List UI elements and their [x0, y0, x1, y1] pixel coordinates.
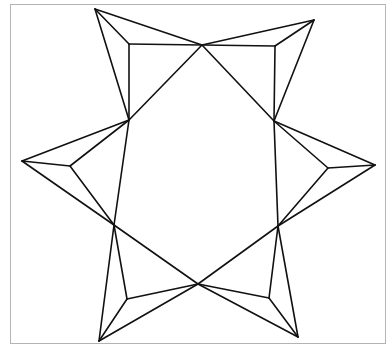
hexagon-edge	[198, 226, 278, 284]
hexagon-edge	[129, 45, 202, 120]
flap-edge	[202, 20, 314, 45]
flap-edge	[99, 225, 114, 341]
fold-line	[70, 120, 129, 166]
flap-edge	[22, 161, 114, 225]
fold-line	[274, 46, 275, 121]
fold-line	[127, 284, 198, 299]
hexagon-edge	[114, 225, 198, 284]
fold-line	[198, 284, 269, 298]
fold-line	[114, 225, 127, 299]
flap-edge	[22, 120, 129, 161]
fold-line	[70, 166, 114, 225]
hexagon-edge	[202, 45, 274, 121]
top-left-flap	[95, 9, 202, 120]
hexagon-edge	[274, 121, 278, 226]
bottom-left-flap	[99, 225, 198, 341]
fold-line	[129, 44, 202, 45]
flap-edge	[274, 121, 375, 165]
bottom-right-flap	[198, 226, 298, 337]
fold-line	[269, 226, 278, 298]
right-flap	[274, 121, 375, 226]
fold-line	[269, 298, 298, 337]
left-flap	[22, 120, 129, 225]
flap-edge	[278, 165, 375, 226]
star-net-diagram	[0, 0, 391, 349]
flap-edge	[198, 284, 298, 337]
flap-edge	[95, 9, 202, 45]
hexagon-edge	[114, 120, 129, 225]
fold-line	[328, 165, 375, 168]
flap-edge	[278, 226, 298, 337]
fold-line	[202, 45, 275, 46]
hexagon	[114, 45, 278, 284]
flap-edge	[99, 284, 198, 341]
fold-line	[274, 121, 328, 168]
flap-edge	[274, 20, 314, 121]
top-right-flap	[202, 20, 314, 121]
fold-line	[278, 168, 328, 226]
